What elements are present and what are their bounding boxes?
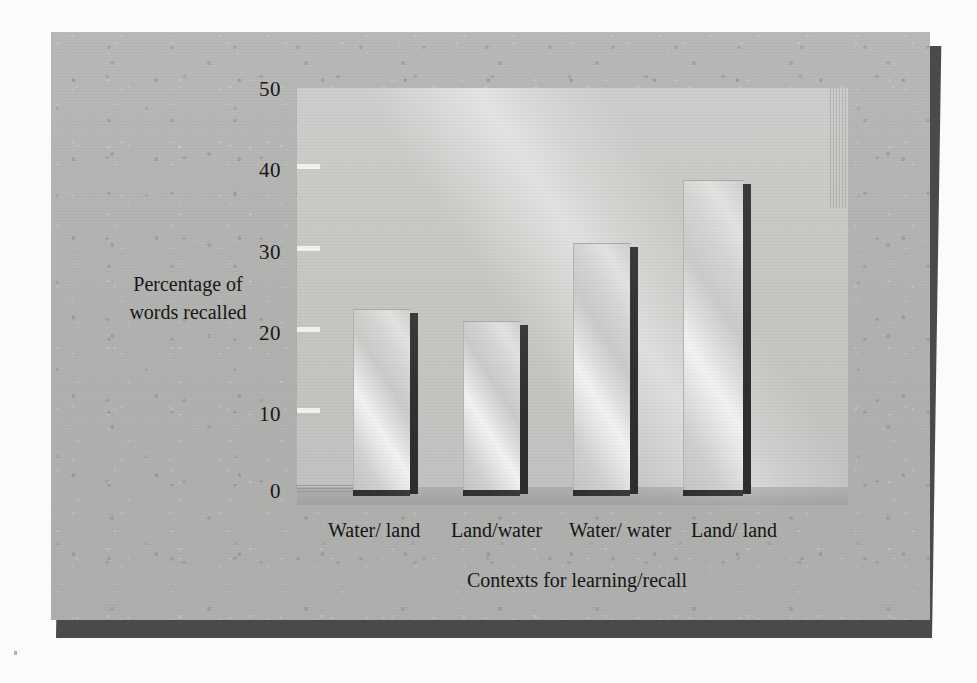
bar-face [353,309,411,491]
bar-base-face [683,490,743,496]
y-axis-title-line-1: Percentage of [93,270,283,298]
y-tick-label-50: 50 [229,77,281,102]
bar-water-water [573,243,630,490]
bar-side-face [520,325,528,494]
plot-edge-scan-streaks [830,88,846,208]
y-axis-title: Percentage of words recalled [93,270,283,326]
y-tick-mark-30 [297,246,320,251]
y-tick-label-10: 10 [229,402,281,427]
scan-speck [14,651,17,655]
bar-side-face [630,247,638,494]
y-tick-mark-10 [297,408,320,413]
bar-face [463,321,521,491]
bar-base-face [573,490,630,496]
plot-area [297,88,848,505]
x-tick-label-land-land: Land/ land [691,519,777,542]
y-axis-title-line-2: words recalled [93,298,283,326]
y-tick-mark-20 [297,327,320,332]
y-tick-label-30: 30 [229,240,281,265]
bar-land-land [683,180,743,490]
x-axis-title: Contexts for learning/recall [297,569,857,592]
bar-side-face [743,184,751,494]
scanned-figure-page: 50 40 30 20 10 0 Percentage of words rec… [0,0,977,683]
x-tick-label-water-land: Water/ land [328,519,420,542]
x-tick-label-land-water: Land/water [451,519,542,542]
bar-base-face [463,490,520,496]
bar-face [573,243,631,491]
figure-panel: 50 40 30 20 10 0 Percentage of words rec… [51,32,930,620]
y-tick-label-0: 0 [229,479,281,504]
bar-water-land [353,309,410,490]
y-tick-label-40: 40 [229,158,281,183]
x-tick-label-water-water: Water/ water [569,519,671,542]
bar-side-face [410,313,418,494]
bar-base-face [353,490,410,496]
bar-face [683,180,744,491]
bar-land-water [463,321,520,490]
y-tick-mark-40 [297,164,320,169]
